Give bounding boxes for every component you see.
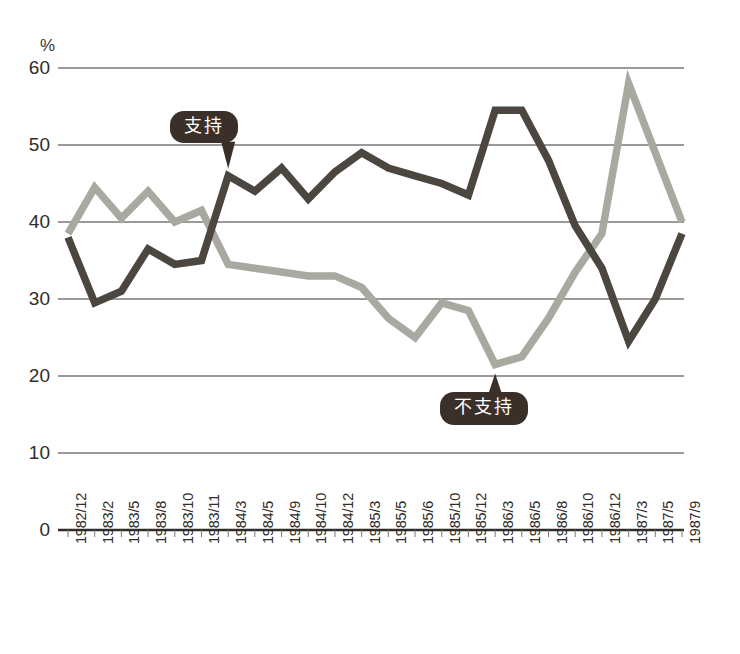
y-axis-tick-label: 60: [6, 58, 50, 77]
chart-plot-area: [0, 0, 740, 654]
x-axis-tick-label: 1986/10: [581, 493, 596, 544]
series-line-oppose: [68, 83, 682, 364]
x-axis-tick-label: 1983/8: [154, 501, 169, 544]
y-axis-tick-label: 30: [6, 289, 50, 308]
x-axis-tick-label: 1986/8: [555, 501, 570, 544]
x-axis-tick-label: 1986/3: [501, 501, 516, 544]
x-axis-tick-label: 1984/3: [234, 501, 249, 544]
x-axis-tick-label: 1985/6: [421, 501, 436, 544]
x-axis-tick-label: 1983/10: [181, 493, 196, 544]
x-axis-tick-label: 1987/5: [661, 501, 676, 544]
x-axis-tick-label: 1984/5: [261, 501, 276, 544]
y-axis-tick-label: 40: [6, 212, 50, 231]
x-axis-tick-label: 1984/9: [288, 501, 303, 544]
annotation-callout-support: 支持: [170, 111, 238, 144]
x-axis-tick-label: 1987/9: [688, 501, 703, 544]
callout-pointer: [221, 142, 235, 169]
y-axis-tick-label: 0: [6, 520, 50, 539]
y-axis-tick-label: 50: [6, 135, 50, 154]
x-axis-tick-label: 1984/10: [314, 493, 329, 544]
y-axis-tick-label: 10: [6, 443, 50, 462]
x-axis-tick-label: 1985/3: [368, 501, 383, 544]
x-axis-tick-label: 1986/12: [608, 493, 623, 544]
x-axis-tick-label: 1982/12: [74, 493, 89, 544]
x-axis-tick-label: 1986/5: [528, 501, 543, 544]
series-lines-group: [68, 83, 682, 364]
chart-container: % 6050403020100 1982/121983/21983/51983/…: [0, 0, 740, 654]
x-axis-tick-label: 1983/11: [207, 494, 222, 544]
x-axis-tick-label: 1984/12: [341, 493, 356, 544]
x-axis-tick-label: 1987/3: [635, 501, 650, 544]
y-axis-tick-label: 20: [6, 366, 50, 385]
x-axis-tick-label: 1985/10: [448, 493, 463, 544]
x-axis-tick-label: 1985/5: [394, 501, 409, 544]
annotation-callout-oppose: 不支持: [440, 392, 528, 425]
x-axis-tick-label: 1983/2: [101, 501, 116, 544]
x-axis-tick-label: 1983/5: [127, 501, 142, 544]
x-axis-tick-label: 1985/12: [474, 493, 489, 544]
